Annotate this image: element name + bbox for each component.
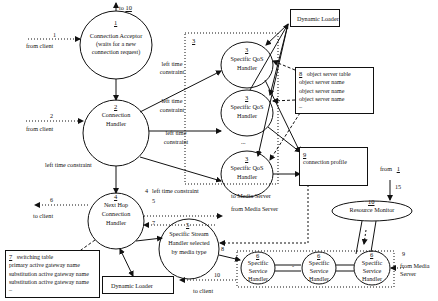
to-client-10-text: to client <box>193 287 213 294</box>
dynamic-loader-top-label: Dynamic Loader <box>297 15 339 22</box>
ltc-c-label: constraint <box>156 138 196 145</box>
to-10-prefix: to <box>119 4 124 11</box>
from-1-num: 1 <box>397 165 400 172</box>
next-hop-handler-title: Next Hop <box>88 201 144 208</box>
connection-handler-title: Handler <box>86 120 146 127</box>
ltc-b-label: left time <box>152 97 192 104</box>
qos-handler-3-title: Specific QoS <box>221 164 273 171</box>
ltc-a-label: left time <box>152 60 192 67</box>
from-client-1-num: 1 <box>53 31 56 38</box>
stream-handler-title: Handler selected <box>159 239 219 246</box>
from-media-server-5-num: 5 <box>152 197 155 204</box>
qos-handler-3-title: Handler <box>221 173 273 180</box>
object-server-row: – <box>296 103 373 111</box>
switching-table-row: primary active gateway name <box>6 261 99 269</box>
object-server-table-box: 8 object server table object server name… <box>295 67 374 114</box>
from-media-server-9-text: Server <box>400 270 416 277</box>
ltc-c-label: left time <box>156 129 196 136</box>
to-client-6-num: 6 <box>50 196 53 203</box>
switching-table-box: 7 switching table primary active gateway… <box>5 250 100 298</box>
service-handler-2-title: Service <box>302 267 336 274</box>
qos-handler-1-id: 3 <box>245 46 248 53</box>
service-handler-3-id: 6 <box>370 251 373 258</box>
object-server-table-title: object server table <box>307 71 351 77</box>
qos-handler-1-title: Handler <box>221 64 273 71</box>
connection-profile-id: 9 <box>303 151 306 158</box>
switching-table-row: substitution active gateway name <box>6 270 99 278</box>
ltc-b-label: constraint <box>152 106 192 113</box>
service-handler-2-title: Handler <box>302 275 336 282</box>
ltc-4-text: left time constraint <box>152 187 199 194</box>
dynamic-loader-top-box: Dynamic Loader <box>290 9 340 27</box>
dynamic-loader-bottom-label: Dynamic Loader <box>111 282 153 289</box>
object-server-row: object server name <box>296 95 373 103</box>
from-media-server-9-num: 9 <box>402 250 405 257</box>
connection-acceptor-title: Connection Acceptor <box>80 32 152 39</box>
resource-monitor-title: Resource Monitor <box>332 206 412 213</box>
from-media-server-5-text: from Media Server <box>231 205 278 212</box>
resource-monitor-id: 10 <box>368 198 375 205</box>
object-server-row: object server name <box>296 87 373 95</box>
stream-handler-title: Specific Stream <box>159 230 219 237</box>
edge-8-label: 8 <box>221 245 224 252</box>
service-handler-3-title: Specific <box>355 259 389 266</box>
ltc-4-num: 4 <box>145 187 148 194</box>
qos-handler-1-title: Specific QoS <box>221 55 273 62</box>
next-hop-handler-title: Handler <box>88 219 144 226</box>
to-10-label: to 10 <box>119 4 132 11</box>
to-client-10-num: 10 <box>214 271 220 278</box>
ltc-a-label: constraint <box>152 68 192 75</box>
service-handler-1-title: Service <box>241 267 275 274</box>
switching-table-row: – <box>6 286 99 294</box>
next-hop-handler-title: Connection <box>88 210 144 217</box>
qos-ellipsis: ... <box>241 138 246 145</box>
connection-handler-id: 2 <box>114 103 117 110</box>
connection-profile-box: 9 connection profile <box>299 147 368 186</box>
qos-group-id: 3 <box>192 37 195 44</box>
connection-acceptor-subtitle: (waits for a new <box>80 40 152 47</box>
from-client-2-num: 2 <box>50 112 53 119</box>
object-server-table-id: 8 <box>299 70 302 77</box>
stream-handler-title: by media type <box>159 248 219 255</box>
service-handler-1-id: 6 <box>256 252 259 259</box>
object-server-row: object server name <box>296 78 373 86</box>
qos-handler-3-id: 3 <box>245 155 248 162</box>
from-1-label: from 1 <box>380 165 400 172</box>
service-handler-3-title: Handler <box>355 275 389 282</box>
dynamic-loader-bottom-box: Dynamic Loader <box>102 276 174 294</box>
switching-table-row: substitution active gateway name <box>6 278 99 286</box>
switching-table-title: switching table <box>17 254 54 260</box>
service-handler-3-title: Service <box>355 267 389 274</box>
connection-acceptor-subtitle: connection request) <box>80 48 152 55</box>
edge-15-label: 15 <box>395 183 401 190</box>
to-media-server-label: to Media Server <box>231 192 271 199</box>
service-dash: - <box>292 262 294 269</box>
connection-acceptor-id: 1 <box>114 19 117 26</box>
qos-handler-2-id: 3 <box>245 94 248 101</box>
edge-7-label: 7 <box>152 219 155 226</box>
left-time-constraint-label: left time constraint <box>45 161 92 168</box>
qos-handler-2-title: Specific QoS <box>221 103 273 110</box>
qos-handler-2-title: Handler <box>221 112 273 119</box>
service-handler-2-title: Specific <box>302 259 336 266</box>
next-hop-handler-id: 4 <box>114 193 117 200</box>
to-10-num: 10 <box>125 4 132 11</box>
connection-handler-title: Connection <box>86 111 146 118</box>
from-media-server-9-text: from Media <box>400 262 429 269</box>
service-handler-1-title: Handler <box>241 275 275 282</box>
from-1-prefix: from <box>380 165 392 172</box>
service-handler-1-title: Specific <box>241 259 275 266</box>
service-handler-2-id: 6 <box>317 252 320 259</box>
from-client-2-text: from client <box>26 125 53 132</box>
to-client-6-text: to client <box>33 212 53 219</box>
connection-profile-title: connection profile <box>300 159 367 165</box>
from-client-1-text: from client <box>26 42 53 49</box>
stream-handler-id: 5 <box>186 221 189 228</box>
switching-table-id: 7 <box>9 253 12 260</box>
architecture-diagram: Dynamic Loader 8 object server table obj… <box>0 0 438 301</box>
